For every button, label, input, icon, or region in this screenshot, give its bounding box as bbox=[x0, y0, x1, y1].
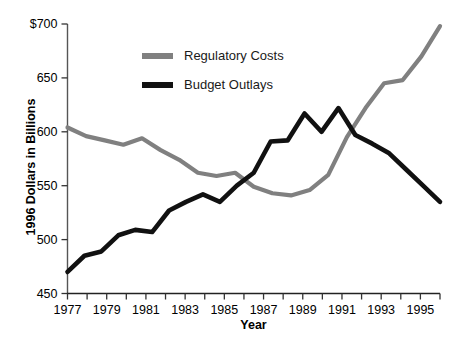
y-tick-label: 450 bbox=[37, 287, 58, 301]
legend-label-regulatory-costs: Regulatory Costs bbox=[184, 48, 284, 63]
series-line-budget-outlays bbox=[68, 108, 441, 272]
legend-item-regulatory-costs: Regulatory Costs bbox=[142, 48, 284, 63]
y-tick-label: 550 bbox=[37, 179, 58, 193]
legend-item-budget-outlays: Budget Outlays bbox=[142, 77, 273, 92]
y-tick-label: $700 bbox=[30, 17, 58, 31]
x-tick-label: 1977 bbox=[54, 303, 82, 317]
y-tick-label: 650 bbox=[37, 71, 58, 85]
y-axis-title: 1996 Dollars in Billions bbox=[24, 67, 38, 267]
y-tick-label: 500 bbox=[37, 233, 58, 247]
x-tick-label: 1987 bbox=[250, 303, 278, 317]
x-tick-label: 1985 bbox=[210, 303, 238, 317]
x-axis-title: Year bbox=[67, 318, 440, 332]
y-tick-label: 600 bbox=[37, 125, 58, 139]
x-tick-label: 1981 bbox=[132, 303, 160, 317]
x-tick-label: 1989 bbox=[289, 303, 317, 317]
legend-label-budget-outlays: Budget Outlays bbox=[184, 77, 273, 92]
x-axis-ticks bbox=[68, 294, 441, 300]
legend-swatch-budget-outlays bbox=[142, 82, 173, 88]
data-series-layer bbox=[68, 26, 441, 272]
axis-lines bbox=[67, 24, 440, 294]
x-tick-label: 1983 bbox=[171, 303, 199, 317]
x-tick-label: 1993 bbox=[367, 303, 395, 317]
chart-container: 450500550600650$700 19771979198119831985… bbox=[0, 0, 455, 344]
x-tick-label: 1979 bbox=[93, 303, 121, 317]
y-axis-ticks bbox=[62, 24, 68, 294]
x-tick-label: 1995 bbox=[406, 303, 434, 317]
x-tick-label: 1991 bbox=[328, 303, 356, 317]
legend-swatch-regulatory-costs bbox=[142, 53, 173, 59]
